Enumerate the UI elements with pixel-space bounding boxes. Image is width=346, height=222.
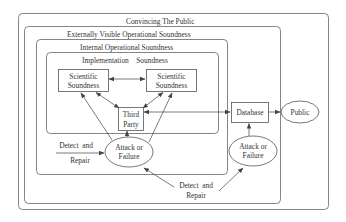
node-scientific-soundness-1: Scientific Soundness: [59, 70, 109, 92]
node-label: Attack or: [239, 142, 267, 151]
edge-third-sci1: [96, 93, 119, 109]
annotation-detect-repair-external: Detect and Repair: [179, 181, 213, 200]
diagram-canvas: Convincing The Public Externally Visible…: [0, 0, 346, 222]
node-label: Failure: [243, 151, 265, 160]
annotation-label: Detect and: [59, 141, 93, 150]
node-label: Scientific: [157, 72, 186, 81]
node-scientific-soundness-2: Scientific Soundness: [147, 70, 197, 92]
node-label: Soundness: [156, 81, 188, 90]
container-label-internal: Internal Operational Soundness: [80, 43, 173, 52]
node-label: Scientific: [69, 72, 98, 81]
node-label: Database: [236, 108, 264, 117]
node-third-party: Third Party: [119, 108, 144, 131]
node-label: Third: [123, 110, 140, 119]
edge-third-sci2: [143, 93, 163, 109]
node-label: Failure: [119, 152, 141, 161]
edge-detect-attack-external: [219, 168, 243, 191]
container-label-implementation: Implementation Soundness: [82, 56, 168, 65]
node-label: Attack or: [115, 143, 143, 152]
annotation-label: Repair: [186, 191, 206, 200]
annotation-label: Repair: [70, 156, 90, 165]
node-public: Public: [281, 101, 319, 123]
node-label: Soundness: [68, 81, 100, 90]
annotation-label: Detect and: [179, 181, 213, 190]
edge-detect-attack-internal-outer: [144, 168, 174, 187]
container-label-external: Externally Visible Operational Soundness: [67, 30, 191, 39]
node-label: Party: [123, 120, 139, 129]
node-database: Database: [232, 103, 269, 123]
node-attack-or-failure-external: Attack or Failure: [229, 136, 277, 166]
node-attack-or-failure-internal: Attack or Failure: [105, 137, 153, 167]
container-label-convincing: Convincing The Public: [126, 17, 195, 26]
node-label: Public: [291, 108, 311, 117]
